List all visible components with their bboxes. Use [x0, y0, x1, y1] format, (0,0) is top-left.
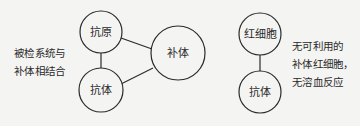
right-caption: 无可利用的 补体红细胞， 无溶血反应	[292, 38, 354, 92]
right-caption-line-1: 无可利用的	[292, 38, 354, 56]
right-caption-line-2: 补体红细胞，	[292, 56, 354, 74]
label-antibody-left: 抗体	[90, 83, 112, 97]
label-antibody-right: 抗体	[249, 85, 271, 99]
label-red-blood-cell: 红细胞	[244, 28, 277, 41]
label-complement: 补体	[167, 46, 189, 60]
right-caption-line-3: 无溶血反应	[292, 74, 354, 92]
edge-antigen-complement	[121, 38, 152, 49]
edge-antibody-complement	[121, 68, 153, 84]
label-antigen: 抗原	[90, 25, 112, 39]
